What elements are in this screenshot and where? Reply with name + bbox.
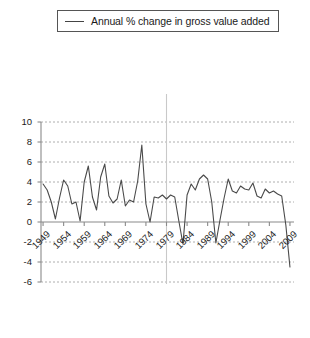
chart-svg (0, 0, 310, 338)
y-tick-label: 10 (10, 117, 32, 127)
y-tick-label: -4 (10, 257, 32, 267)
y-tick-label: -6 (10, 277, 32, 287)
y-tick-label: 2 (10, 197, 32, 207)
y-tick-label: 0 (10, 217, 32, 227)
plot-area: 1086420-2-4-6 19491954195919641969197419… (0, 0, 310, 338)
gridlines-group (41, 122, 294, 282)
y-tick-label: 8 (10, 137, 32, 147)
y-tick-label: 6 (10, 157, 32, 167)
y-tick-label: 4 (10, 177, 32, 187)
chart-container: Annual % change in gross value added 108… (0, 0, 310, 338)
